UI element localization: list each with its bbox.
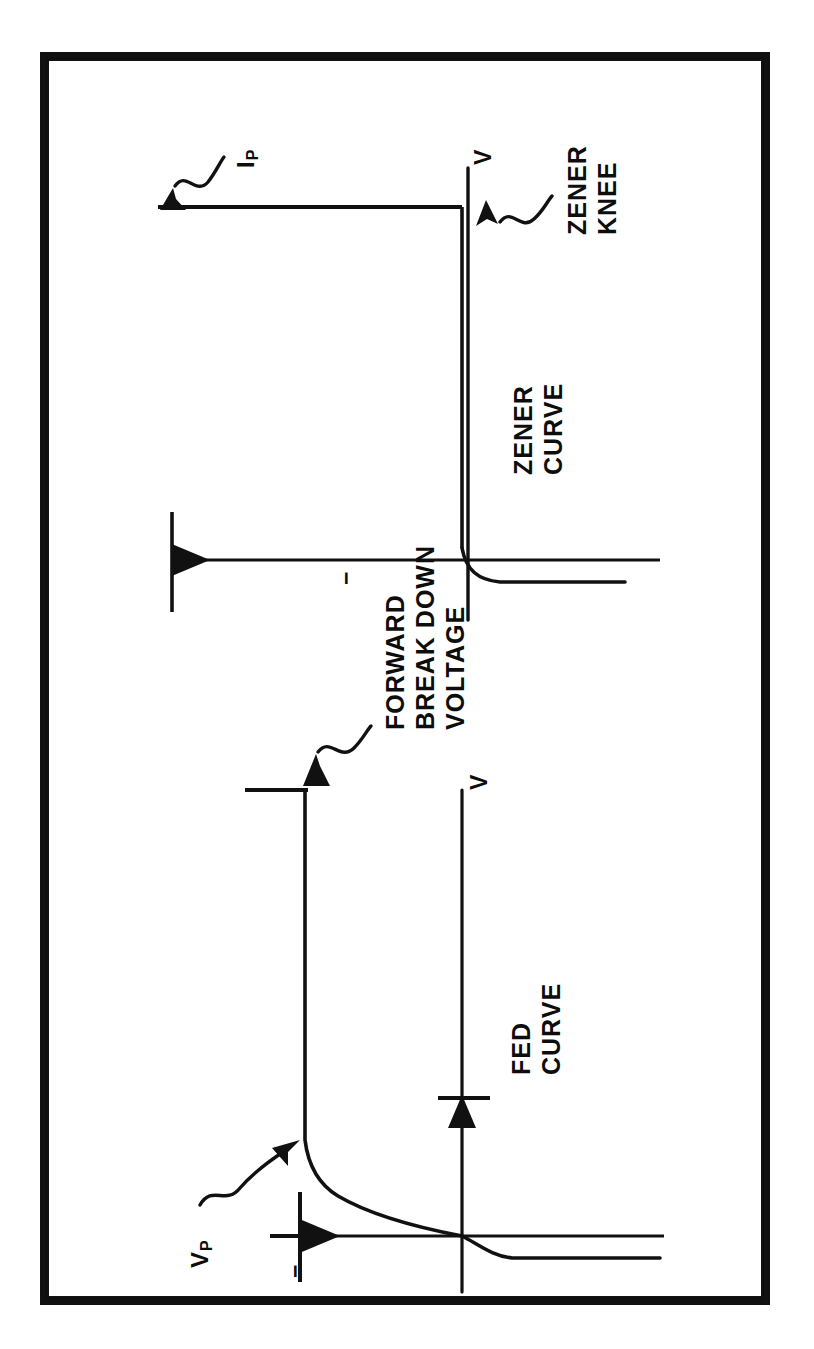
zener-curve-line-1: ZENER [508,383,538,475]
fed-breakdown-pointer-arrowhead [303,754,330,786]
fed-curve-line-2: CURVE [536,983,566,1075]
fed-diagram-group [200,726,664,1292]
fed-peak-voltage-label: VP [186,1240,216,1268]
fed-breakdown-line-1: FORWARD [380,545,410,730]
zener-voltage-axis-label: V [470,149,497,165]
diagram-page: IP V − ZENER KNEE ZENER CURVE FORWARD BR… [0,0,814,1349]
zener-curve-line-2: CURVE [538,383,568,475]
fed-vp-pointer-squiggle [200,1152,283,1205]
zener-knee-pointer-arrowhead [476,200,498,226]
zener-curve-label: ZENER CURVE [508,383,568,475]
fed-breakdown-line-3: VOLTAGE [440,545,470,730]
zener-ip-pointer-squiggle [175,157,224,186]
fed-curve-label: FED CURVE [506,983,566,1075]
zener-peak-current-label: IP [232,150,262,168]
fed-curve-line-1: FED [506,983,536,1075]
fed-breakdown-callout-label: FORWARD BREAK DOWN VOLTAGE [380,545,470,730]
fed-voltage-axis-label: V [466,774,493,790]
zener-knee-curve [462,548,625,582]
fed-reverse-tail [462,1236,660,1258]
fed-current-axis-label: − [282,1264,309,1278]
zener-knee-line-2: KNEE [592,145,622,235]
zener-knee-callout-label: ZENER KNEE [562,145,622,235]
zener-knee-line-1: ZENER [562,145,592,235]
fed-breakdown-pointer-squiggle [318,726,371,752]
fed-axis-diode-marker [438,1095,490,1128]
fed-breakdown-line-2: BREAK DOWN [410,545,440,730]
zener-current-axis-label: − [333,571,360,585]
zener-knee-pointer-squiggle [500,196,552,223]
zener-ip-pointer-arrowhead [160,188,186,210]
fed-vp-pointer-arrowhead [272,1140,300,1166]
fed-curve [305,790,462,1236]
